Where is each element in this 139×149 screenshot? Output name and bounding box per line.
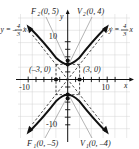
label-focus-upper-letter: F	[30, 7, 37, 16]
point-rect-corner-right	[78, 77, 82, 81]
asymptote-left-lead: y = –	[0, 25, 17, 34]
label-focus-lower-coords: (0, –5)	[36, 139, 58, 148]
asymptote-right-lead: y =	[108, 25, 119, 34]
asymptote-left-denominator: 3	[16, 30, 21, 37]
label-vertex-lower: V 1 (0, –4)	[80, 139, 111, 149]
point-focus-lower	[66, 96, 70, 100]
label-vertex-upper-coords: (0, 4)	[86, 7, 104, 16]
figure-background	[0, 0, 139, 149]
x-tick-label-positive: 10	[102, 83, 110, 92]
x-tick-label-negative: -10	[19, 83, 30, 92]
hyperbola-figure: F 2 (0, 5) V 2 (0, 4) F 1 (0, –5) V 1 (0…	[0, 0, 139, 149]
label-focus-lower-letter: F	[26, 139, 33, 148]
point-rect-corner-left	[54, 77, 58, 81]
label-vertex-upper: V 2 (0, 4)	[77, 7, 104, 17]
y-tick-label-positive: 10	[49, 32, 57, 41]
label-corner-right: (3, 0)	[83, 65, 101, 74]
label-focus-upper-coords: (0, 5)	[41, 7, 59, 16]
y-tick-label-negative: -10	[46, 120, 57, 129]
point-vertex-lower	[66, 93, 70, 97]
label-corner-left: (–3, 0)	[29, 65, 51, 74]
label-vertex-lower-coords: (0, –4)	[89, 139, 111, 148]
x-axis-label: x	[123, 81, 128, 90]
asymptote-left-variable: x	[22, 25, 27, 34]
asymptote-right-variable: x	[128, 25, 133, 34]
graph-canvas: F 2 (0, 5) V 2 (0, 4) F 1 (0, –5) V 1 (0…	[0, 0, 139, 149]
point-vertex-upper	[66, 62, 70, 66]
asymptote-right-denominator: 3	[122, 30, 127, 37]
label-focus-upper: F 2 (0, 5)	[30, 7, 59, 17]
point-focus-upper	[66, 59, 70, 63]
label-focus-lower: F 1 (0, –5)	[26, 139, 59, 149]
y-axis-label: y	[59, 12, 64, 21]
